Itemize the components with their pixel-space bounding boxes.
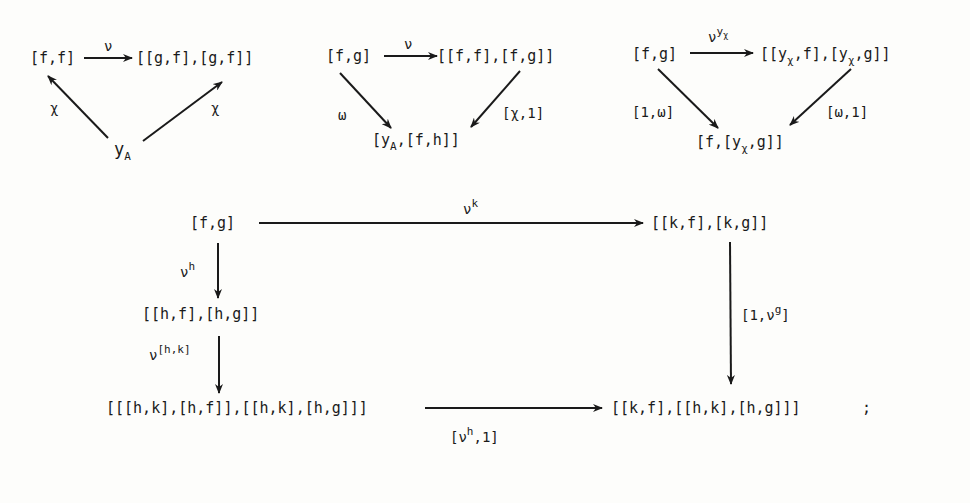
d2-bottom-post: ,[f,h]]	[397, 131, 460, 149]
d3-node-bottom: [f,[yχ,g]]	[696, 133, 784, 151]
d2-node-fg: [f,g]	[326, 47, 371, 65]
d1-yA-base: y	[114, 139, 124, 159]
d4-nu-sup: k	[471, 197, 478, 210]
d1-node-gfgf: [[g,f],[g,f]]	[136, 49, 253, 67]
d3-label-nu-yx: νyχ	[708, 28, 728, 46]
d3-b-part: [f,[y	[696, 133, 741, 151]
d3-tr-sub: χ	[787, 54, 794, 67]
d4-node-fg: [f,g]	[190, 214, 235, 232]
d3-tr-part: [[y	[760, 45, 787, 63]
d4-nu-sup: h	[188, 260, 195, 273]
d3-nu-sup-sub: χ	[723, 30, 728, 40]
d4-node-bottom-left: [[[h,k],[h,f]],[[h,k],[h,g]]]	[106, 399, 368, 417]
d4-post: ]	[781, 307, 789, 323]
d2-node-bottom: [yA,[f,h]]	[372, 131, 460, 149]
d3-label-omega-1: [ω,1]	[826, 103, 868, 121]
d4-label-nu-h-1: [νh,1]	[450, 428, 499, 446]
d3-node-top-right: [[yχ,f],[yχ,g]]	[760, 45, 891, 63]
d4-label-nu-h: νh	[180, 263, 195, 281]
d4-nu-sup: [h,k]	[157, 343, 190, 356]
d4-node-bottom-right: [[k,f],[[h,k],[h,g]]]	[611, 399, 801, 417]
d4-pre: [1,ν	[741, 307, 775, 323]
d1-label-chi-right: χ	[211, 99, 219, 117]
d3-tr-sub: χ	[848, 54, 855, 67]
d3-nu-sup: yχ	[716, 25, 728, 38]
d1-yA-sub: A	[124, 150, 131, 163]
d4-node-hfhg: [[h,f],[h,g]]	[142, 305, 259, 323]
d2-node-ffff: [[f,f],[f,g]]	[437, 47, 554, 65]
d3-node-fg: [f,g]	[632, 45, 677, 63]
d4-label-1-nu-g: [1,νg]	[741, 306, 790, 324]
d2-bottom-sub: A	[390, 140, 397, 153]
d2-bottom-pre: [y	[372, 131, 390, 149]
d2-label-omega: ω	[338, 106, 346, 124]
d4-label-nu-k: νk	[463, 200, 478, 218]
d1-node-ff: [f,f]	[30, 49, 75, 67]
d4-label-nu-hk: ν[h,k]	[149, 346, 191, 364]
d3-b-part: ,g]]	[748, 133, 784, 151]
d4-pre: [ν	[450, 429, 467, 445]
d1-label-chi-left: χ	[50, 99, 58, 117]
d3-tr-part: ,f],[y	[794, 45, 848, 63]
d2-label-nu: ν	[404, 35, 412, 53]
d4-post: ,1]	[473, 429, 498, 445]
d1-label-nu: ν	[104, 37, 112, 55]
d3-b-sub: χ	[741, 142, 748, 155]
d4-right-down-arrow	[730, 242, 731, 384]
d4-node-kfkg: [[k,f],[k,g]]	[651, 214, 768, 232]
d4-trailing-semicolon: ;	[862, 399, 871, 417]
d2-label-chi-1: [χ,1]	[502, 104, 544, 122]
d3-label-1-omega: [1,ω]	[632, 103, 674, 121]
d3-tr-part: ,g]]	[855, 45, 891, 63]
d1-node-yA: yA	[114, 140, 131, 158]
d2-left-arrow	[340, 73, 391, 128]
